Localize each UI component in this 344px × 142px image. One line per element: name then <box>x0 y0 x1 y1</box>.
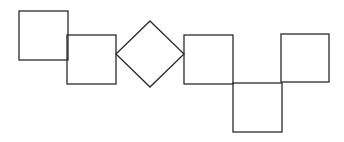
square-4 <box>233 83 282 132</box>
diamond-1 <box>116 21 184 87</box>
square-1 <box>19 11 68 60</box>
shape-diagram <box>0 0 344 142</box>
square-5 <box>281 34 329 82</box>
diagram-canvas <box>0 0 344 142</box>
square-2 <box>67 35 116 84</box>
square-3 <box>184 35 233 84</box>
